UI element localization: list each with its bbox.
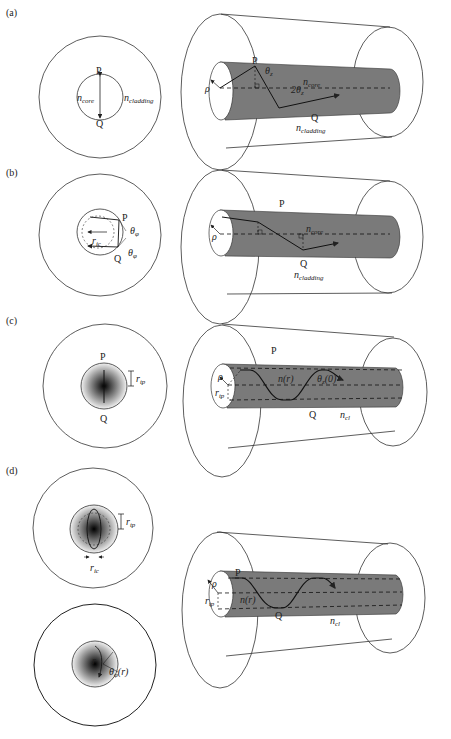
theta-phi-label-2: θφ xyxy=(128,247,137,260)
fiber-point-p: P xyxy=(279,198,285,209)
point-p: P xyxy=(122,212,128,223)
point-q: Q xyxy=(96,118,104,129)
panel-a: (a) P Q ncore ncladding P Q ρ xyxy=(6,7,423,170)
n-r-label: n(r) xyxy=(278,373,294,385)
r-label: r xyxy=(92,655,96,666)
rho-label: ρ xyxy=(211,578,217,589)
fiber-b: P Q ρ ncore ncladding xyxy=(181,170,423,324)
fiber-n-cladding-label: ncladding xyxy=(294,269,324,282)
fiber-point-p: P xyxy=(235,567,241,578)
point-p: P xyxy=(100,351,106,362)
cross-section-d-bottom: r θφ(r) xyxy=(34,604,156,726)
panel-d: (d) rtp ric r θφ(r) xyxy=(6,465,425,726)
fiber-n-cladding-label: ncladding xyxy=(296,122,326,135)
cross-section-b: P Q ric θφ θφ xyxy=(39,174,161,296)
panel-b-label: (b) xyxy=(6,167,18,179)
fiber-c: P Q ρ rtp n(r) θz(0) ncl xyxy=(183,324,427,477)
panel-c-label: (c) xyxy=(6,315,17,327)
fiber-point-q: Q xyxy=(309,409,317,420)
rho-label: ρ xyxy=(211,231,217,242)
fiber-point-q: Q xyxy=(275,610,283,621)
r-ic-label: ric xyxy=(90,562,100,575)
n-cl-label: ncl xyxy=(340,409,350,422)
point-p: P xyxy=(96,65,102,76)
r-tp-label: rtp xyxy=(136,373,146,386)
panel-d-label: (d) xyxy=(6,465,18,477)
r-tp-label: rtp xyxy=(126,516,136,529)
point-q: Q xyxy=(114,253,122,264)
n-r-label: n(r) xyxy=(240,594,256,606)
panel-a-label: (a) xyxy=(6,7,17,19)
cross-section-a: P Q ncore ncladding xyxy=(39,36,161,158)
cross-section-c: P Q rtp xyxy=(43,324,167,448)
point-q: Q xyxy=(100,413,108,424)
fiber-point-p: P xyxy=(271,345,277,356)
rho-label: ρ xyxy=(204,83,210,94)
n-cl-label: ncl xyxy=(330,615,340,628)
theta-phi-label-1: θφ xyxy=(130,225,139,238)
cross-section-d-top: rtp ric xyxy=(33,468,153,588)
optical-fiber-ray-diagram: (a) P Q ncore ncladding P Q ρ xyxy=(0,0,451,739)
n-cladding-label: ncladding xyxy=(124,92,154,105)
fiber-point-q: Q xyxy=(311,112,319,123)
panel-b: (b) P Q ric θφ θφ xyxy=(6,167,423,324)
panel-c: (c) P Q rtp P Q xyxy=(6,315,427,477)
rho-label: ρ xyxy=(217,371,223,382)
fiber-a: P Q ρ θz 2θz ncore ncladding xyxy=(181,14,423,170)
fiber-point-q: Q xyxy=(300,258,308,269)
fiber-d: P Q ρ rtp n(r) ncl xyxy=(182,532,425,688)
fiber-point-p: P xyxy=(252,55,258,66)
n-core-label: ncore xyxy=(77,92,94,105)
